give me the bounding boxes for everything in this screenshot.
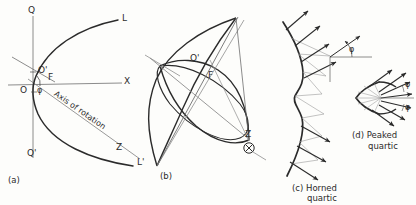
panel-d-label-phi-upper: φ xyxy=(405,81,410,89)
panel-c-ray-arrow-5 xyxy=(301,126,330,142)
panel-b-caption: (b) xyxy=(160,172,172,181)
panel-b-label-focus: F xyxy=(208,71,213,80)
panel-c-normal-12 xyxy=(291,160,318,164)
panel-c-ray-arrow-7 xyxy=(290,162,318,180)
panel-d-fan-1 xyxy=(358,92,381,98)
panel-a-label-x-axis: X xyxy=(124,77,130,86)
panel-a-label-origin: O xyxy=(20,86,27,95)
panel-c-ray-arrow-2 xyxy=(295,26,320,46)
panel-a-label-focus: F xyxy=(48,73,53,82)
panel-b-ray-to-z-1 xyxy=(236,18,249,141)
panel-b-label-origin-prime: O' xyxy=(190,54,200,63)
panel-c-normal-5 xyxy=(303,72,322,94)
panel-d-graphic xyxy=(356,70,414,126)
panel-a-label-q-bottom: Q' xyxy=(27,149,37,158)
panel-c-ray-arrow-1 xyxy=(286,11,308,30)
panel-d-phi-arc-upper xyxy=(402,85,404,92)
panel-a-label-l-upper: L xyxy=(122,14,127,23)
figure-canvas: Q Q' X L L' Z O O' F φ Axis of rotation … xyxy=(0,0,416,205)
panel-d-fan-3 xyxy=(358,98,381,104)
panel-d-ray-arrow-3 xyxy=(381,94,412,98)
panel-b-ray-to-z-2 xyxy=(210,60,249,141)
panel-c-normal-6 xyxy=(295,94,322,96)
panel-d-caption-line2: quartic xyxy=(368,142,398,151)
panel-a-label-q-top: Q xyxy=(28,6,35,15)
panel-c-ray-arrow-6 xyxy=(297,146,326,162)
panel-b-label-z-point: Z xyxy=(245,130,251,139)
panel-c-normal-2 xyxy=(298,54,330,56)
panel-c-caption-line2: quartic xyxy=(307,194,337,203)
panel-b-cross-section-ellipse xyxy=(157,65,248,139)
panel-c-phi-ray xyxy=(330,36,360,57)
panel-b-graphic xyxy=(145,17,266,166)
panel-a-caption: (a) xyxy=(8,176,20,185)
panel-b-outer-lobe xyxy=(149,18,236,166)
panel-a-label-phi: φ xyxy=(37,87,42,95)
panel-c-ray-arrow-4 xyxy=(304,62,336,78)
panel-a-label-z-point: Z xyxy=(116,143,122,152)
panel-c-normal-11 xyxy=(299,142,318,160)
panel-b-into-page-tail xyxy=(253,152,266,160)
panel-c-caption-line1: (c) Horned xyxy=(292,184,337,193)
panel-c-normal-10 xyxy=(299,136,322,142)
panel-a-label-origin-prime: O' xyxy=(38,66,48,75)
panel-c-normal-8 xyxy=(302,114,324,118)
panel-c-normal-9 xyxy=(302,118,322,136)
panel-d-label-phi-lower: φ xyxy=(405,104,410,112)
panel-c-label-phi: φ xyxy=(349,46,354,54)
panel-c-ray-arrow-3 xyxy=(301,44,329,62)
panel-a-label-l-lower: L' xyxy=(137,158,145,167)
panel-d-phi-arc-lower xyxy=(402,104,404,111)
panel-d-caption-line1: (d) Peaked xyxy=(352,131,397,140)
